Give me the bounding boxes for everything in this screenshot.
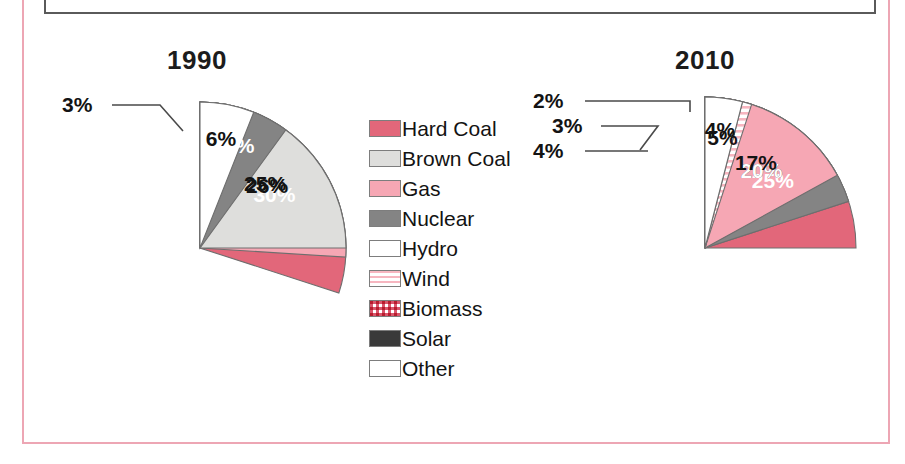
pie-callout-label-solar: 2% — [533, 90, 563, 111]
legend-swatch-browncoal — [369, 150, 401, 167]
legend-item-hardcoal[interactable]: Hard Coal — [369, 113, 524, 143]
legend-item-wind[interactable]: Wind — [369, 263, 524, 293]
legend-label-hardcoal: Hard Coal — [402, 118, 497, 139]
pie-label-other: 4% — [705, 118, 735, 139]
legend-label-wind: Wind — [402, 268, 450, 289]
legend-label-biomass: Biomass — [402, 298, 483, 319]
pie-chart-1990 — [40, 88, 360, 408]
legend-swatch-solar — [369, 330, 401, 347]
legend-item-browncoal[interactable]: Brown Coal — [369, 143, 524, 173]
pie-label-browncoal: 25% — [244, 172, 286, 193]
enclosing-box-fragment — [44, 0, 876, 14]
legend-item-hydro[interactable]: Hydro — [369, 233, 524, 263]
legend-swatch-wind — [369, 270, 401, 287]
pie-callout-label-biomass: 4% — [533, 140, 563, 161]
legend-label-solar: Solar — [402, 328, 451, 349]
legend-swatch-hydro — [369, 240, 401, 257]
legend-item-other[interactable]: Other — [369, 353, 524, 383]
legend-item-gas[interactable]: Gas — [369, 173, 524, 203]
legend-label-browncoal: Brown Coal — [402, 148, 511, 169]
legend-label-nuclear: Nuclear — [402, 208, 474, 229]
legend-label-gas: Gas — [402, 178, 441, 199]
legend-item-solar[interactable]: Solar — [369, 323, 524, 353]
legend-swatch-gas — [369, 180, 401, 197]
pie-chart-1990-svg — [40, 88, 360, 408]
energy-source-legend: Hard CoalBrown CoalGasNuclearHydroWindBi… — [369, 113, 524, 383]
pie-callout-label-hydro: 3% — [552, 115, 582, 136]
legend-swatch-nuclear — [369, 210, 401, 227]
legend-swatch-hardcoal — [369, 120, 401, 137]
legend-item-biomass[interactable]: Biomass — [369, 293, 524, 323]
legend-swatch-other — [369, 360, 401, 377]
chart-title-1990: 1990 — [122, 45, 272, 76]
legend-item-nuclear[interactable]: Nuclear — [369, 203, 524, 233]
legend-label-hydro: Hydro — [402, 238, 458, 259]
legend-swatch-biomass — [369, 300, 401, 317]
figure-canvas: 1990 2010 Hard CoalBrown CoalGasNuclearH… — [0, 0, 905, 464]
pie-label-other: 6% — [206, 127, 236, 148]
chart-title-2010: 2010 — [630, 45, 780, 76]
legend-label-other: Other — [402, 358, 455, 379]
pie-label-gas: 17% — [735, 151, 777, 172]
pie-callout-label-hydro: 3% — [62, 94, 92, 115]
